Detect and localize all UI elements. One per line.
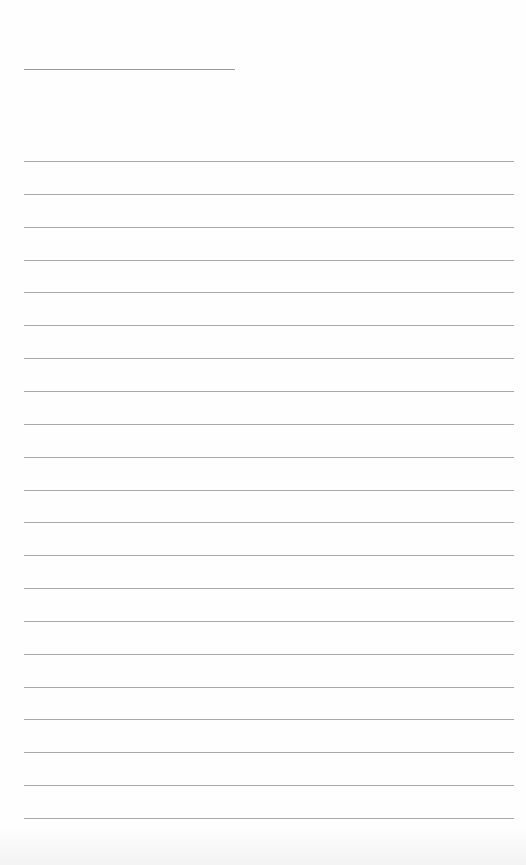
ruled-line [24, 391, 514, 392]
title-line [24, 69, 235, 70]
ruled-line [24, 490, 514, 491]
ruled-line [24, 325, 514, 326]
ruled-line [24, 654, 514, 655]
ruled-line [24, 818, 514, 819]
bottom-shadow [0, 825, 526, 865]
ruled-line [24, 292, 514, 293]
ruled-line [24, 785, 514, 786]
ruled-line [24, 424, 514, 425]
ruled-line [24, 161, 514, 162]
ruled-line [24, 752, 514, 753]
lined-paper-sheet [0, 0, 526, 865]
ruled-line [24, 687, 514, 688]
ruled-line [24, 522, 514, 523]
ruled-line [24, 227, 514, 228]
ruled-line [24, 621, 514, 622]
ruled-line [24, 358, 514, 359]
ruled-line [24, 719, 514, 720]
ruled-line [24, 588, 514, 589]
ruled-line [24, 260, 514, 261]
ruled-line [24, 457, 514, 458]
ruled-line [24, 555, 514, 556]
ruled-line [24, 194, 514, 195]
